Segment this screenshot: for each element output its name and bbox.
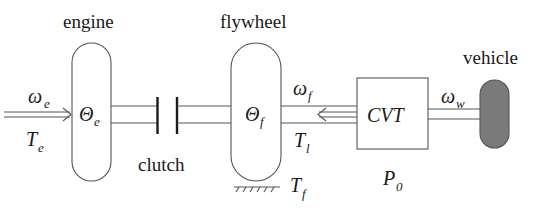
load-torque-sub: l — [306, 141, 310, 156]
flywheel-speed-label: ω f — [293, 77, 314, 103]
cvt-power-sub: 0 — [396, 179, 403, 194]
flywheel-label: flywheel — [220, 11, 286, 32]
cvt-block: CVT — [357, 78, 428, 149]
friction-torque-label: T f — [290, 174, 308, 201]
wheel-speed-label: ω w — [441, 85, 465, 111]
wheel-speed-sub: w — [456, 96, 465, 111]
flywheel-inertia-sub: f — [260, 114, 266, 129]
cvt-power-symbol: P — [382, 167, 395, 189]
engine-inertia-symbol: Θ — [79, 103, 93, 125]
output-shaft — [428, 109, 480, 119]
wheel-speed-symbol: ω — [441, 85, 455, 107]
engine-block: Θ e — [72, 43, 111, 181]
powertrain-diagram: ω e T e Θ e engine clutch Θ f flywheel — [0, 0, 548, 210]
flywheel-inertia-symbol: Θ — [245, 103, 259, 125]
engine-torque-sub: e — [38, 140, 44, 155]
vehicle-label: vehicle — [463, 47, 518, 68]
clutch-label: clutch — [138, 154, 185, 175]
friction-torque-sub: f — [302, 186, 308, 201]
engine-input-arrow — [4, 108, 71, 121]
engine-shaft — [111, 106, 157, 123]
flywheel-speed-sub: f — [308, 88, 314, 103]
engine-torque-label: T e — [26, 128, 44, 155]
cvt-label: CVT — [367, 104, 406, 126]
load-torque-label: T l — [294, 129, 310, 156]
clutch — [158, 97, 178, 134]
flywheel-block: Θ f — [231, 43, 281, 181]
ground-hatch — [234, 187, 280, 192]
flywheel-speed-symbol: ω — [293, 77, 307, 99]
vehicle-block — [480, 80, 509, 148]
cvt-to-flywheel-arrow — [318, 108, 357, 121]
engine-inertia-sub: e — [94, 114, 100, 129]
engine-label: engine — [63, 11, 114, 32]
clutch-shaft — [177, 106, 231, 123]
engine-speed-symbol: ω — [28, 85, 42, 107]
engine-speed-sub: e — [44, 96, 50, 111]
cvt-power-label: P 0 — [382, 167, 403, 194]
flywheel-shaft — [281, 106, 357, 123]
engine-speed-label: ω e — [28, 85, 50, 111]
